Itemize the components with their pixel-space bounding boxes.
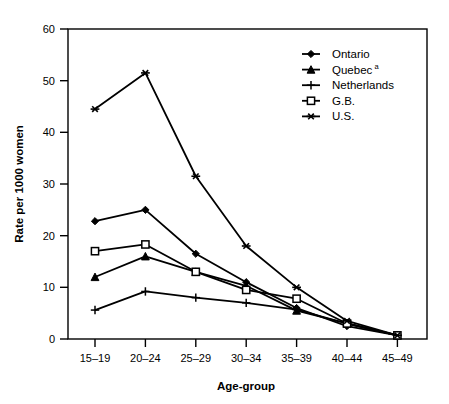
x-tick-label: 15–19	[80, 352, 111, 364]
square-marker	[91, 248, 98, 255]
square-marker	[307, 97, 314, 104]
legend-label: Quebec	[332, 64, 373, 76]
x-tick-label: 45–49	[382, 352, 413, 364]
legend-label: Netherlands	[332, 79, 394, 91]
square-marker	[192, 268, 199, 275]
y-tick-label: 60	[43, 23, 55, 35]
y-tick-label: 30	[43, 178, 55, 190]
y-tick-label: 50	[43, 75, 55, 87]
x-tick-label: 20–24	[130, 352, 161, 364]
y-axis-ticks	[60, 29, 68, 339]
legend-label: U.S.	[332, 110, 354, 122]
x-axis-title: Age-group	[217, 380, 275, 392]
legend-label: Ontario	[332, 48, 370, 60]
x-axis-ticks	[95, 339, 397, 347]
square-marker	[142, 241, 149, 248]
y-tick-label: 10	[43, 281, 55, 293]
square-marker	[293, 295, 300, 302]
x-tick-label: 35–39	[281, 352, 312, 364]
x-axis-tick-labels: 15–19 20–24 25–29 30–34 35–39 40–44 45–4…	[80, 352, 413, 364]
line-chart: 60 50 40 30 20 10 0 Rate per 1000 women …	[0, 0, 449, 404]
x-tick-label: 25–29	[181, 352, 212, 364]
y-tick-label: 0	[49, 333, 55, 345]
x-tick-label: 30–34	[231, 352, 262, 364]
x-tick-label: 40–44	[332, 352, 363, 364]
legend-label: G.B.	[332, 95, 355, 107]
y-axis-title: Rate per 1000 women	[13, 125, 25, 243]
chart-container: 60 50 40 30 20 10 0 Rate per 1000 women …	[0, 0, 449, 404]
y-tick-label: 40	[43, 126, 55, 138]
y-tick-label: 20	[43, 230, 55, 242]
square-marker	[243, 286, 250, 293]
y-axis-tick-labels: 60 50 40 30 20 10 0	[43, 23, 55, 345]
